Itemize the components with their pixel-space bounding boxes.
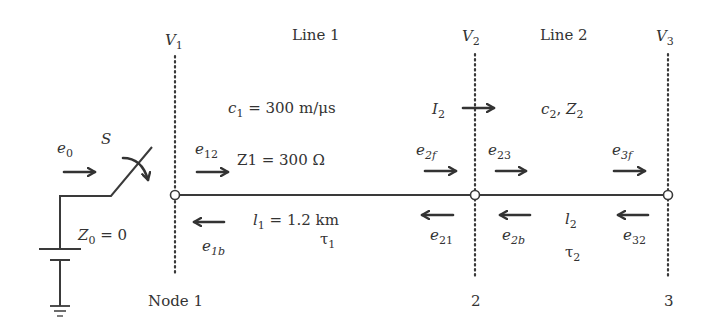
transmission-line-diagram: V1 V2 V3 Line 1 Line 2 c1 = 300 m/μs Z1 …	[0, 0, 710, 333]
z0-label: Z0 = 0	[77, 226, 127, 247]
v2-label: V2	[462, 27, 480, 48]
e23-label: e23	[488, 141, 511, 162]
node3-terminal	[664, 191, 673, 200]
e2b-label: e2b	[502, 226, 525, 247]
e1b-label: e1b	[202, 237, 225, 258]
e0-label: e0	[57, 139, 73, 160]
line1-title: Line 1	[292, 26, 340, 44]
e32-label: e32	[623, 226, 646, 247]
line2-params: c2, Z2	[541, 100, 583, 121]
i2-label: I2	[431, 100, 445, 121]
ground-icon	[50, 306, 70, 316]
e12-label: e12	[195, 140, 218, 161]
e2f-label: e2f	[416, 141, 438, 162]
v1-label: V1	[165, 31, 183, 52]
node1-label: Node 1	[148, 292, 203, 310]
v3-label: V3	[656, 27, 674, 48]
node3-label: 3	[664, 292, 674, 310]
switch-label: S	[101, 130, 111, 148]
e3f-label: e3f	[612, 141, 634, 162]
node2-terminal	[471, 191, 480, 200]
line1-length: l1 = 1.2 km	[253, 211, 339, 232]
line1-tau: τ1	[320, 230, 335, 251]
line1-speed: c1 = 300 m/μs	[228, 99, 336, 120]
line1-impedance: Z1 = 300 Ω	[237, 151, 325, 169]
line2-title: Line 2	[540, 26, 588, 44]
e21-label: e21	[430, 226, 453, 247]
node1-terminal	[171, 191, 180, 200]
node2-label: 2	[471, 292, 481, 310]
line2-length: l2	[565, 210, 577, 231]
line2-tau: τ2	[565, 243, 580, 264]
